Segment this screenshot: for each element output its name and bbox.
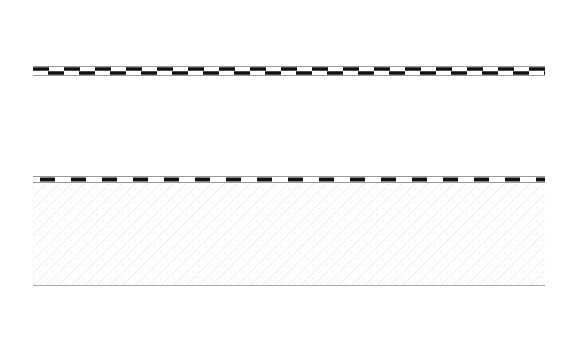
lower-membrane <box>33 177 545 183</box>
upper-membrane <box>33 67 545 76</box>
wall-section-diagram <box>0 0 580 338</box>
concrete-slab <box>33 183 545 286</box>
